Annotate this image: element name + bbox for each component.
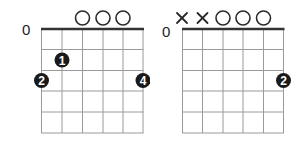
- finger-number: 4: [140, 74, 147, 88]
- open-string-icons: [216, 11, 271, 25]
- muted-string-icons: [177, 13, 208, 23]
- frets: [182, 50, 284, 134]
- finger-number: 1: [59, 54, 66, 68]
- open-string-icon: [236, 11, 250, 25]
- finger-dot: 2: [34, 73, 49, 88]
- chord-diagram-2: 0: [150, 0, 300, 146]
- chord-grid: 2: [150, 0, 301, 146]
- open-string-icon: [96, 11, 110, 25]
- open-string-icon: [76, 11, 90, 25]
- finger-dot: 4: [136, 73, 151, 88]
- strings: [42, 29, 144, 133]
- muted-string-icon: [177, 13, 187, 23]
- chord-diagram-1: 0 1: [0, 0, 150, 146]
- open-string-icons: [76, 11, 131, 25]
- finger-dot: 1: [55, 53, 70, 68]
- finger-number: 2: [38, 74, 45, 88]
- chord-grid: 1 2 4: [0, 0, 150, 146]
- strings: [183, 29, 284, 133]
- muted-string-icon: [198, 13, 208, 23]
- finger-number: 2: [280, 74, 287, 88]
- open-string-icon: [257, 11, 271, 25]
- open-string-icon: [116, 11, 130, 25]
- finger-dot: 2: [276, 73, 291, 88]
- open-string-icon: [216, 11, 230, 25]
